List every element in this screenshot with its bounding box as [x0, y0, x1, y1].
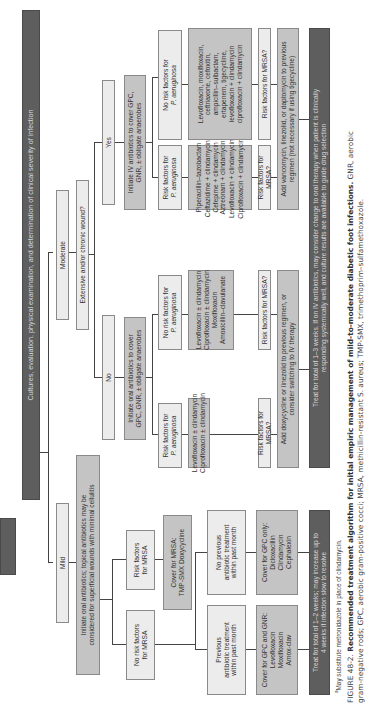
connector [210, 434, 258, 435]
connector [155, 559, 163, 560]
text-line: Cover for MRSA: [170, 538, 178, 588]
connector [195, 552, 207, 553]
footnote: aMay substitute metronidazole in place o… [334, 540, 342, 693]
text-line: responding systemically well, and cultur… [320, 124, 328, 372]
text-line: Amoxicillin–clavulanate [219, 276, 227, 344]
text-line: antibiotic treatment [223, 525, 231, 581]
text-line: TMP-SMX Doxycycline [178, 529, 186, 596]
text-line: Moxifloxacin [277, 632, 285, 668]
footnote-marker: a [334, 690, 339, 693]
text-line: ceftriaxone, cefoxitin, [204, 53, 212, 115]
connector [299, 369, 309, 370]
text-line: Treat for total of 1–3 weeks. If on IV a… [312, 89, 320, 407]
oral-no-risk-pa-box: No risk factors for P. aeruginosa [158, 275, 182, 350]
text-line: GNR, ± obligate anaerobes [135, 103, 143, 183]
connector [152, 315, 153, 435]
text-line: ertapenem, tigecycline, [220, 50, 228, 118]
moderate-box: Moderate [56, 190, 69, 320]
text-line: levofloxacin + clindamycin [228, 46, 236, 122]
oral-initiate-box: Initiate oral antibiotics to cover GPC, … [124, 317, 146, 440]
cover-gpc-gnr-box: Cover for GPC and GNR: Levofloxacin Moxi… [256, 605, 298, 695]
connector [48, 252, 53, 253]
text-line: Levofloxacin, moxifloxacin, [197, 45, 205, 123]
text-line: within past month [230, 527, 238, 578]
risk-mrsa-box: Risk factors for MRSA [126, 530, 155, 590]
text-line: Ciprofloxacin ± clindamycin [203, 270, 211, 350]
diagram-canvas: Cultures, evaluation, physical examinati… [0, 0, 381, 713]
text-line: Risk factors [133, 543, 141, 577]
text-line: within past month [230, 624, 238, 675]
no-previous-treatment-box: No previous antibiotic treatment within … [207, 510, 246, 595]
iv-add-mrsa-box: Add vancomycin, linezolid, or daptomycin… [277, 28, 299, 210]
text-line: Amox-clav [285, 635, 293, 666]
text-line: Risk factors for MRSA? [261, 276, 269, 345]
text-line: Ciprofloxacin + clindamycin [237, 139, 244, 219]
iv-initiate-box: Initiate IV antibiotics to cover GPC, GN… [124, 75, 146, 210]
extensive-wound-question: Extensive and/or chronic wound? [76, 180, 89, 330]
oral-risk-pa-drugs: Levofloxacin ± clindamycin Ciprofloxacin… [188, 398, 210, 468]
text-line: considered for superficial wounds with m… [88, 485, 96, 646]
question-label: Extensive and/or chronic wound? [79, 206, 87, 303]
connector [195, 552, 196, 650]
oral-no-risk-pa-drugs: Levofloxacin ± clindamycin Ciprofloxacin… [188, 270, 234, 350]
connector [69, 562, 76, 563]
moderate-treat-duration: Treat for total of 1–3 weeks. If on IV a… [309, 28, 330, 468]
text-line: Levofloxacin ± clindamycin [195, 271, 203, 349]
text-line: Risk factors for [162, 414, 170, 458]
text-line: ampicillin–sulbactam, [212, 53, 220, 116]
text-line: Aztreonam + clindamycin [219, 141, 227, 215]
mild-box: Mild [56, 503, 69, 623]
cover-gpc-only-box: Cover for GPC only: Dicloxacillin Clinda… [256, 510, 298, 595]
cover-mrsa-box: Cover for MRSA: TMP-SMX Doxycycline [163, 515, 192, 610]
text-line: Initiate IV antibiotics to cover GPC, [127, 92, 135, 194]
side-tab [0, 518, 16, 575]
text-line: Risk factors for MRSA? [257, 399, 273, 467]
text-line: 4 weeks if infection slow to resolve [320, 552, 328, 653]
text-line: regimen (not necessary if using tigecycl… [288, 56, 296, 182]
text-line: No risk factors [133, 624, 141, 666]
connector [195, 649, 207, 650]
connector [152, 78, 153, 178]
text-line: Levofloxacin ± clindamycin [191, 394, 199, 472]
text-line: No previous [215, 535, 223, 570]
header-text: Cultures, evaluation, physical examinati… [27, 110, 35, 401]
connector [155, 644, 195, 645]
mild-initiate-oral: Initiate oral antibiotics; topical antib… [76, 455, 100, 675]
text-line: P. aeruginosa [170, 158, 178, 198]
text-line: Risk factors for MRSA? [261, 50, 269, 119]
connector [115, 377, 124, 378]
connector [94, 377, 102, 378]
no-label: No [105, 373, 113, 381]
iv-no-risk-pa-drugs: Levofloxacin, moxifloxacin, ceftriaxone,… [188, 28, 252, 140]
oral-risk-pa-box: Risk factors for P. aeruginosa [158, 403, 182, 468]
iv-risk-pa-drugs: Piperacillin–tazobactam Ceftazidime + cl… [188, 145, 252, 210]
caption-body: gram-negative rods; GPC, aerobic gram-po… [356, 199, 365, 703]
iv-no-risk-pa-box: No risk factors for P. aeruginosa [158, 30, 182, 140]
no-risk-mrsa-box: No risk factors for MRSA [126, 610, 155, 680]
figure-caption: FIGURE 48-2. Recommended treatment algor… [346, 131, 367, 703]
text-line: P. aeruginosa [170, 65, 178, 105]
caption-label: FIGURE 48-2. [346, 654, 355, 703]
text-line: P. aeruginosa [170, 293, 178, 333]
connector [246, 649, 256, 650]
mild-label: Mild [59, 557, 67, 569]
mild-treat-duration: Treat for total of 1–2 weeks; may increa… [309, 510, 330, 695]
text-line: Levofloxacin + clindamycin [228, 139, 235, 218]
text-line: Risk factors for [162, 156, 170, 200]
iv-risk-mrsa-q2: Risk factors for MRSA? [258, 28, 271, 140]
footnote-text: May substitute metronidazole in place of… [335, 540, 342, 691]
oral-risk-mrsa-q1: Risk factors for MRSA? [258, 398, 271, 468]
connector [94, 142, 102, 143]
text-line: Ciprofloxacin ± clindamycin [199, 393, 207, 473]
connector [40, 452, 48, 453]
text-line: Levofloxacin [269, 632, 277, 669]
text-line: for MRSA [141, 631, 149, 660]
text-line: Cover for GPC and GNR: [261, 613, 269, 687]
connector [298, 552, 309, 553]
connector [234, 314, 258, 315]
text-line: consider switching to IV therapy [288, 322, 296, 415]
text-line: Ceftazidime + clindamycin [204, 140, 211, 217]
connector [112, 559, 126, 560]
caption-body: GNR, aerobic [346, 131, 355, 179]
text-line: Cover for GPC only: [261, 523, 269, 582]
